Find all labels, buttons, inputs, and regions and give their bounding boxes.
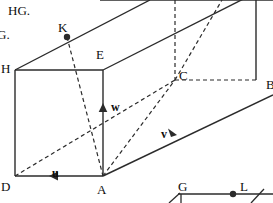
vector-label-v: v [161, 128, 167, 140]
marked-point-layer [64, 34, 236, 197]
vertex-label-B: B [266, 78, 273, 91]
dash-D-C [15, 80, 175, 176]
vector-arrow-layer [49, 103, 177, 181]
edge-A-B [103, 95, 273, 176]
cuboid-vector-figure [0, 0, 273, 203]
solid-edge-layer [15, 0, 273, 176]
vertex-label-H: H [1, 62, 10, 75]
arrow-v [168, 129, 177, 138]
edge-H-top [15, 0, 150, 70]
vertex-label-C: C [179, 69, 188, 82]
geometry-diagram-page: HG.G.HKECBDAuvwGL [0, 0, 273, 203]
vector-label-u: u [52, 167, 59, 179]
subfigure-label-L: L [240, 180, 248, 193]
subfigure-label-G: G [178, 180, 187, 193]
vertex-label-A: A [97, 183, 106, 196]
dashed-edge-layer [15, 0, 256, 176]
sub-left-tick [169, 193, 180, 203]
note-hg: HG. [8, 4, 30, 17]
note-g: G. [0, 28, 10, 41]
sub-right-tick [251, 189, 264, 203]
vertex-label-D: D [1, 180, 10, 193]
arrow-w [99, 103, 108, 112]
vertex-label-K: K [58, 21, 67, 34]
vertex-label-E: E [96, 48, 104, 61]
point-L [230, 191, 236, 197]
vector-label-w: w [111, 101, 120, 113]
